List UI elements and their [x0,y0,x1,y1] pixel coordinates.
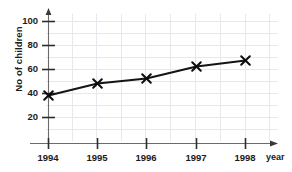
y-axis-arrow-icon [46,8,52,15]
grid-lines [46,14,278,141]
x-axis-title: year [266,152,285,162]
line-chart: No of children 100 80 60 40 20 1994 1995… [0,0,292,172]
y-tick-label-20: 20 [12,111,38,122]
x-tick-label-1995: 1995 [77,152,117,163]
x-axis [30,141,278,147]
y-tick-label-80: 80 [12,39,38,50]
x-tick-label-1996: 1996 [126,152,166,163]
x-tick-label-1998: 1998 [225,152,265,163]
y-axis [46,8,52,144]
x-tick-label-1994: 1994 [28,152,68,163]
x-axis-arrow-icon [270,141,278,147]
chart-canvas [0,0,292,172]
y-tick-label-40: 40 [12,87,38,98]
y-tick-label-100: 100 [12,15,38,26]
x-tick-label-1997: 1997 [176,152,216,163]
y-tick-label-60: 60 [12,63,38,74]
